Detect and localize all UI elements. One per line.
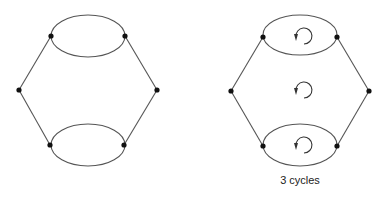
left-graph-node [154,87,159,92]
left-graph-ellipse-edge [51,15,125,57]
arrowhead-icon [294,88,298,95]
left-graph-node [16,87,21,92]
left-graph-ellipse-edge [51,124,125,166]
cycle-arrow-icon [296,137,312,153]
diagram-canvas [0,0,388,199]
right-graph-ellipse-edge [263,15,337,55]
right-graph-node [260,143,265,148]
left-graph-node [48,33,53,38]
right-graph-ellipse-edge [263,124,337,166]
right-graph-node [260,34,265,39]
right-graph-edge [231,37,263,91]
left-graph-edge [124,90,157,145]
left-graph-node [47,142,52,147]
right-graph-edge [337,37,369,91]
caption-3-cycles: 3 cycles [270,174,330,186]
right-graph-edge [337,91,369,146]
arrowhead-icon [294,143,298,150]
right-graph-node [334,143,339,148]
right-graph-edge [231,91,263,146]
left-graph-edge [19,90,50,145]
right-graph-node [334,34,339,39]
cycle-arrow-icon [296,28,312,44]
cycle-arrow-icon [296,82,312,98]
left-graph-edge [19,36,51,90]
left-graph-edge [125,36,157,90]
right-graph-node [366,88,371,93]
arrowhead-icon [294,34,298,41]
left-graph-node [121,142,126,147]
right-graph-node [228,88,233,93]
left-graph-node [122,33,127,38]
